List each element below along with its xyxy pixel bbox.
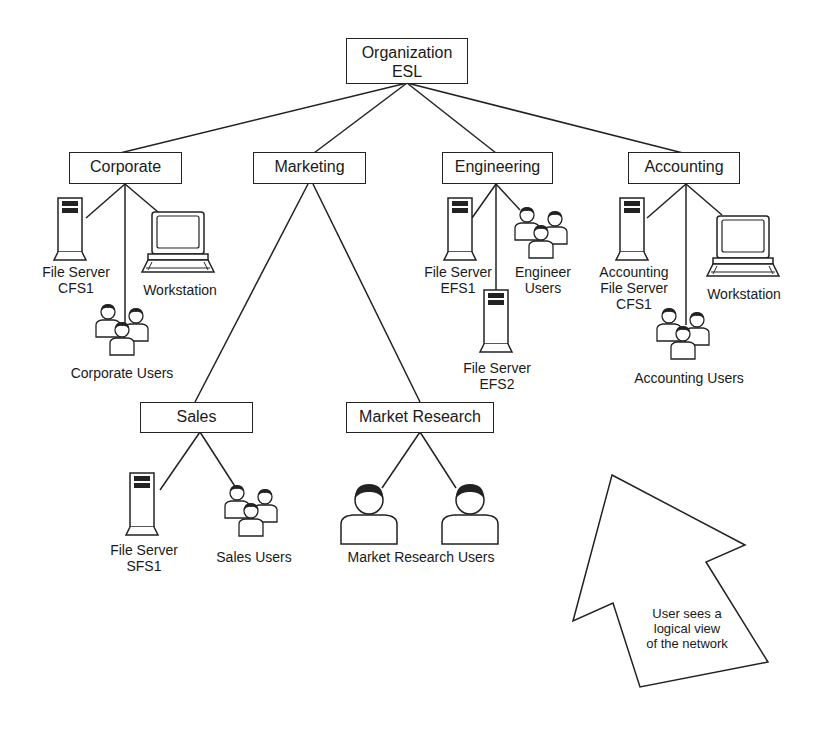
node-engineering: Engineering	[442, 152, 553, 184]
label-sales-server: File Server SFS1	[104, 542, 184, 574]
node-marketing: Marketing	[253, 152, 366, 184]
label-market-research-users: Market Research Users	[336, 549, 506, 565]
node-organization: Organization ESL	[346, 38, 468, 84]
callout-line: logical view	[632, 621, 742, 636]
label-corporate-users: Corporate Users	[62, 365, 182, 381]
label-accounting-server: Accounting File Server CFS1	[594, 264, 674, 312]
node-market-research: Market Research	[346, 402, 494, 433]
label-line: CFS1	[594, 296, 674, 312]
label-corporate-workstation: Workstation	[138, 282, 222, 298]
node-accounting-label: Accounting	[644, 158, 723, 175]
label-line: File Server	[104, 542, 184, 558]
label-line: Engineer	[510, 264, 576, 280]
label-line: CFS1	[36, 280, 116, 296]
label-line: Accounting	[594, 264, 674, 280]
node-corporate: Corporate	[69, 152, 182, 184]
label-line: File Server	[457, 360, 537, 376]
label-corporate-server: File Server CFS1	[36, 264, 116, 296]
node-organization-code: ESL	[347, 62, 467, 81]
node-corporate-label: Corporate	[90, 158, 161, 175]
label-line: SFS1	[104, 558, 184, 574]
node-marketing-label: Marketing	[274, 158, 344, 175]
label-engineering-users: Engineer Users	[510, 264, 576, 296]
node-market-research-label: Market Research	[359, 408, 481, 425]
label-line: File Server	[36, 264, 116, 280]
node-sales: Sales	[140, 402, 253, 433]
label-line: Users	[510, 280, 576, 296]
label-line: EFS2	[457, 376, 537, 392]
user-icon	[341, 484, 498, 544]
label-line: EFS1	[418, 280, 498, 296]
label-accounting-users: Accounting Users	[626, 370, 752, 386]
callout-line: User sees a	[632, 606, 742, 621]
node-engineering-label: Engineering	[455, 158, 540, 175]
label-engineering-server2: File Server EFS2	[457, 360, 537, 392]
label-line: File Server	[418, 264, 498, 280]
node-accounting: Accounting	[628, 152, 740, 184]
label-sales-users: Sales Users	[206, 549, 302, 565]
callout-line: of the network	[632, 636, 742, 651]
label-accounting-workstation: Workstation	[702, 286, 786, 302]
node-organization-name: Organization	[347, 43, 467, 62]
callout-text: User sees a logical view of the network	[632, 606, 742, 651]
node-sales-label: Sales	[176, 408, 216, 425]
label-line: File Server	[594, 280, 674, 296]
label-engineering-server1: File Server EFS1	[418, 264, 498, 296]
